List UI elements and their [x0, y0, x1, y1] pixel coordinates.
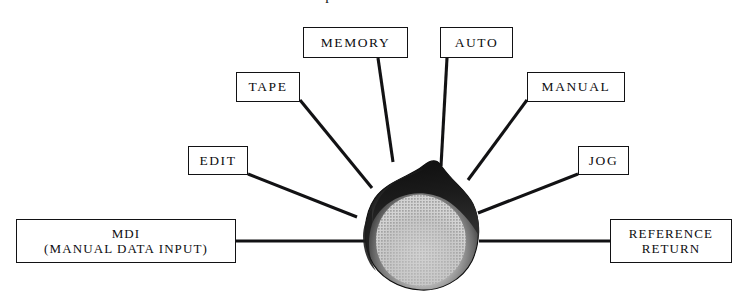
connector-memory	[378, 58, 393, 162]
label-text-reference-return-line1: REFERENCE	[629, 226, 713, 241]
label-text-mdi-line1: MDI	[112, 226, 141, 241]
label-text-jog: JOG	[589, 153, 619, 169]
label-box-tape[interactable]: TAPE	[236, 72, 300, 102]
label-text-memory: MEMORY	[321, 35, 391, 51]
label-text-manual: MANUAL	[542, 79, 611, 95]
label-box-reference-return[interactable]: REFERENCERETURN	[610, 219, 732, 263]
label-text-mdi-line2: (MANUAL DATA INPUT)	[44, 241, 208, 256]
connector-jog	[478, 174, 578, 213]
label-box-memory[interactable]: MEMORY	[303, 27, 408, 58]
connector-manual	[468, 100, 527, 180]
label-box-edit[interactable]: EDIT	[188, 146, 248, 175]
label-box-auto[interactable]: AUTO	[440, 27, 513, 58]
label-text-edit: EDIT	[199, 153, 236, 169]
connector-auto	[441, 58, 447, 166]
label-text-reference-return-line2: RETURN	[642, 241, 701, 256]
teardrop-blob	[363, 161, 479, 290]
label-box-manual[interactable]: MANUAL	[527, 72, 625, 102]
operation-modes-diagram: Operation modes	[0, 0, 737, 295]
label-text-tape: TAPE	[248, 79, 287, 95]
connector-edit	[248, 174, 357, 217]
label-box-mdi[interactable]: MDI(MANUAL DATA INPUT)	[16, 219, 236, 263]
label-box-jog[interactable]: JOG	[578, 146, 629, 175]
label-text-auto: AUTO	[455, 35, 499, 51]
connector-tape	[300, 100, 372, 188]
